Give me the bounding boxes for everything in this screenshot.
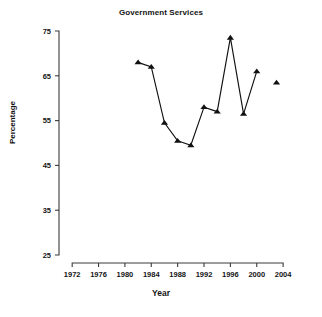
data-point-marker <box>253 68 260 73</box>
y-tick-label: 65 <box>43 72 51 81</box>
x-tick-label: 2004 <box>275 270 293 279</box>
x-tick-label: 1976 <box>90 270 107 279</box>
x-tick-label: 1996 <box>222 270 239 279</box>
y-tick-label: 45 <box>43 161 51 170</box>
y-tick-label: 35 <box>43 206 51 215</box>
y-axis-spine <box>55 31 59 255</box>
x-tick-label: 1980 <box>117 270 134 279</box>
chart-container: Government Services Percentage Year 2535… <box>0 0 322 317</box>
series-line <box>138 38 257 146</box>
x-tick-label: 1984 <box>143 270 161 279</box>
x-tick-label: 1988 <box>169 270 186 279</box>
x-tick-label: 1972 <box>64 270 81 279</box>
x-axis: 197219761980198419881992199620002004 <box>64 263 292 279</box>
x-tick-label: 1992 <box>196 270 213 279</box>
y-tick-label: 75 <box>43 27 51 36</box>
data-point-marker <box>273 80 280 85</box>
data-point-marker <box>200 104 207 109</box>
x-tick-label: 2000 <box>248 270 265 279</box>
data-series <box>134 35 280 147</box>
y-tick-label: 55 <box>43 116 51 125</box>
data-point-marker <box>227 35 234 40</box>
data-point-marker <box>174 138 181 143</box>
y-tick-label: 25 <box>43 251 51 260</box>
plot-area: 253545556575 197219761980198419881992199… <box>0 0 322 317</box>
y-axis: 253545556575 <box>43 27 59 260</box>
data-point-marker <box>134 60 141 65</box>
data-point-marker <box>161 120 168 125</box>
data-point-marker <box>240 111 247 116</box>
